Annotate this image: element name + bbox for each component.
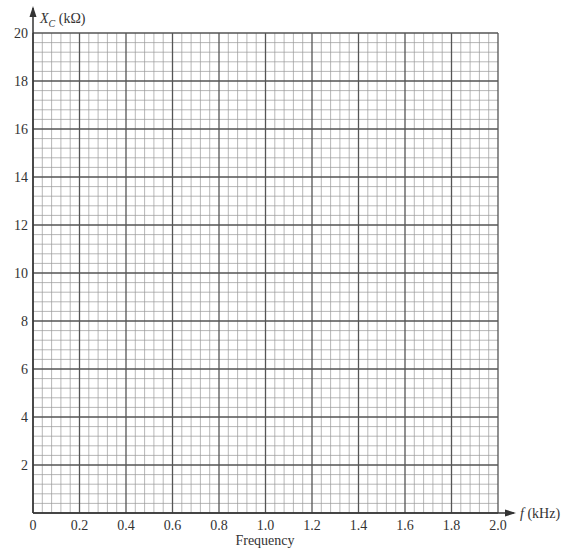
y-tick-label: 2 <box>21 458 28 473</box>
x-tick-labels: 00.20.40.60.81.01.21.41.61.82.0 <box>30 518 507 533</box>
x-tick-label: 0.2 <box>71 518 89 533</box>
x-tick-label: 0.8 <box>210 518 228 533</box>
x-tick-label: 1.8 <box>443 518 461 533</box>
y-tick-label: 10 <box>14 266 28 281</box>
x-tick-label: 1.0 <box>257 518 275 533</box>
y-tick-label: 4 <box>21 410 28 425</box>
y-tick-label: 12 <box>14 218 28 233</box>
y-tick-label: 16 <box>14 122 28 137</box>
x-tick-label: 1.4 <box>350 518 368 533</box>
y-tick-label: 14 <box>14 170 28 185</box>
y-tick-label: 18 <box>14 74 28 89</box>
axes <box>30 6 517 517</box>
x-axis-arrow-icon <box>505 510 516 517</box>
x-tick-label: 0.4 <box>117 518 135 533</box>
y-tick-label: 8 <box>21 314 28 329</box>
x-axis-label: f (kHz) <box>520 506 560 522</box>
x-tick-label: 0 <box>30 518 37 533</box>
x-tick-label: 0.6 <box>164 518 182 533</box>
x-axis-caption: Frequency <box>235 533 294 548</box>
x-tick-label: 2.0 <box>489 518 507 533</box>
grid-major-lines <box>33 33 498 513</box>
x-tick-label: 1.6 <box>396 518 414 533</box>
y-tick-labels: 2468101214161820 <box>14 26 28 473</box>
y-axis-label: XC (kΩ) <box>39 11 86 29</box>
x-tick-label: 1.2 <box>303 518 321 533</box>
y-axis-arrow-icon <box>30 6 37 17</box>
y-tick-label: 20 <box>14 26 28 41</box>
graph-paper-chart: 00.20.40.60.81.01.21.41.61.82.0 24681012… <box>0 0 571 560</box>
y-tick-label: 6 <box>21 362 28 377</box>
